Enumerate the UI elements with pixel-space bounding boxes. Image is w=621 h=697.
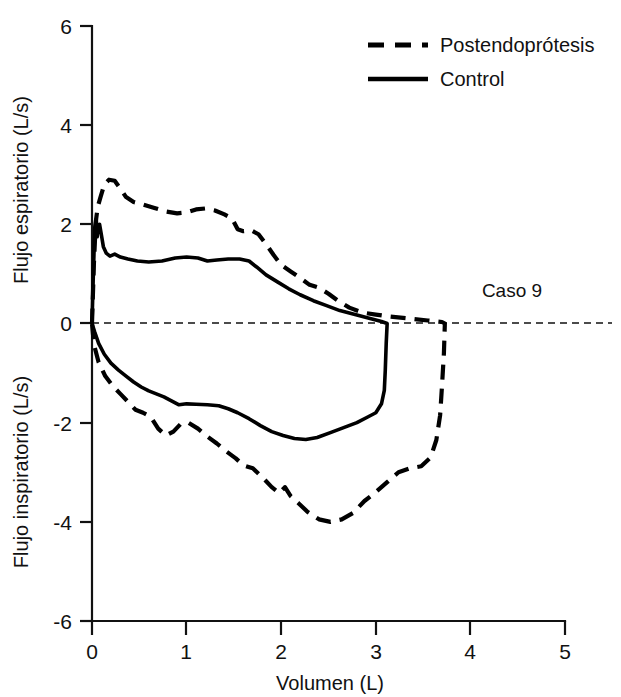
x-tick-label-3: 3 xyxy=(370,640,382,663)
series-postendoprotesis-path xyxy=(92,180,445,522)
y-tick-label-4: 4 xyxy=(60,114,72,137)
x-axis-title: Volumen (L) xyxy=(276,672,384,694)
x-tick-label-1: 1 xyxy=(180,640,192,663)
y-tick-label-0: 0 xyxy=(60,312,72,335)
series-control-path xyxy=(92,219,387,439)
y-tick-label-6: 6 xyxy=(60,15,72,38)
y-tick-label-2: 2 xyxy=(60,213,72,236)
x-tick-label-0: 0 xyxy=(86,640,98,663)
series-group xyxy=(92,180,445,522)
flow-volume-loop-figure: 6 4 2 0 -2 -4 -6 0 1 2 3 4 5 Volumen (L)… xyxy=(0,0,621,697)
x-tick-label-4: 4 xyxy=(464,640,476,663)
axis-group xyxy=(80,26,565,635)
y-tick-label-neg4: -4 xyxy=(53,511,72,534)
y-axis-title-expiratory: Flujo espiratorio (L/s) xyxy=(10,96,32,284)
annotation-case-label: Caso 9 xyxy=(482,280,542,301)
y-tick-labels: 6 4 2 0 -2 -4 -6 xyxy=(53,15,72,633)
legend: Postendoprótesis Control xyxy=(368,34,595,90)
y-tick-label-neg6: -6 xyxy=(53,610,72,633)
y-tick-label-neg2: -2 xyxy=(53,412,72,435)
chart-svg: 6 4 2 0 -2 -4 -6 0 1 2 3 4 5 Volumen (L)… xyxy=(0,0,621,697)
legend-label-control: Control xyxy=(440,68,504,90)
legend-label-postendoprotesis: Postendoprótesis xyxy=(440,34,595,56)
x-tick-label-2: 2 xyxy=(275,640,287,663)
x-tick-label-5: 5 xyxy=(559,640,571,663)
x-tick-labels: 0 1 2 3 4 5 xyxy=(86,640,571,663)
y-axis-title-inspiratory: Flujo inspiratorio (L/s) xyxy=(10,376,32,568)
